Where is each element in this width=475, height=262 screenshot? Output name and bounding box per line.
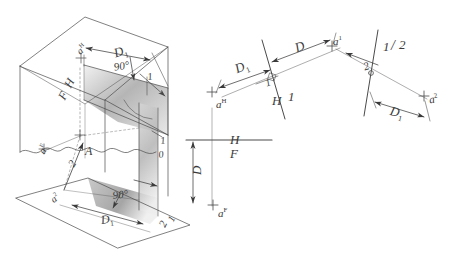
annotation-point-a: A: [85, 145, 92, 157]
annotation-aux-a-h: aH: [216, 98, 226, 110]
annotation-aux-h: H: [272, 94, 281, 107]
annotation-sec-slash: /: [391, 39, 395, 53]
annotation-aux-a-1: a1: [333, 35, 342, 47]
annotation-sec-1: 1: [383, 40, 390, 53]
annotation-fv-a-f: aF: [218, 207, 227, 219]
ext-line-sec-left: [370, 92, 376, 108]
annotation-angle-low: 90°: [112, 188, 128, 201]
annotation-d1-low: D1: [100, 212, 114, 228]
plus-mark-a-f-front: [208, 200, 218, 210]
torn-edge-left: [20, 147, 85, 153]
ext-line-aux-left: [216, 80, 221, 93]
annotation-one-right: 1: [160, 135, 166, 145]
annotation-sec-a-2: a2: [428, 92, 439, 105]
annotation-fv-h: H: [230, 133, 239, 146]
plus-mark-a-h-aux: [207, 87, 217, 97]
annotation-sec-2: 2: [399, 38, 406, 51]
annotation-aux-1: 1: [288, 90, 295, 103]
front-orthographic-view: [186, 108, 272, 210]
angle-pointer-upper: [130, 57, 134, 80]
fold-line-1-2: [364, 30, 378, 116]
line-of-sight-sec: [336, 49, 427, 99]
plus-mark-point-a: [75, 130, 85, 140]
vertical-plane-shade: [139, 103, 158, 216]
annotation-fv-d: D: [190, 166, 203, 175]
annotation-fv-f: F: [230, 147, 238, 160]
projector-a-to-plane: [80, 128, 139, 136]
